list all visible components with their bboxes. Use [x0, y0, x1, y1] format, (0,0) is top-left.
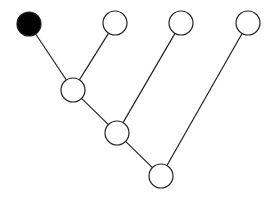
edge-leaf1-internal1	[36, 34, 67, 80]
edge-internal1-internal2	[82, 98, 109, 124]
node-leaf4	[236, 11, 260, 35]
node-root	[149, 164, 173, 188]
tree-nodes	[17, 11, 260, 188]
edge-leaf3-internal2	[123, 33, 175, 122]
edge-internal2-root	[126, 141, 153, 167]
node-internal1	[61, 78, 85, 102]
edge-leaf2-internal1	[79, 33, 108, 80]
node-leaf3	[169, 11, 193, 35]
node-internal2	[105, 121, 129, 145]
edge-leaf4-root	[167, 33, 242, 165]
node-leaf1	[17, 12, 41, 36]
tree-diagram	[0, 0, 267, 198]
node-leaf2	[103, 11, 127, 35]
